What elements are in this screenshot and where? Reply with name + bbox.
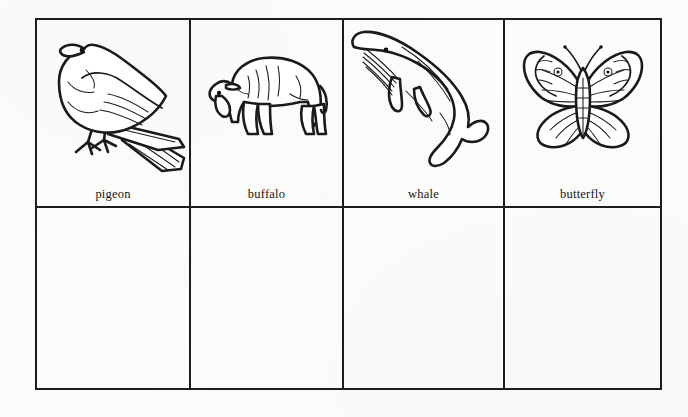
table-cell-buffalo[interactable]: buffalo xyxy=(191,20,344,206)
blank-row xyxy=(37,206,660,388)
blank-cell-1[interactable] xyxy=(37,208,191,388)
cell-label-whale: whale xyxy=(344,188,503,201)
buffalo-illustration xyxy=(191,22,342,172)
animal-table: pigeon xyxy=(35,18,662,390)
table-cell-whale[interactable]: whale xyxy=(344,20,505,206)
whale-illustration xyxy=(344,22,503,172)
worksheet-page: pigeon xyxy=(0,0,688,417)
table-cell-pigeon[interactable]: pigeon xyxy=(37,20,191,206)
blank-cell-2[interactable] xyxy=(191,208,344,388)
cell-label-pigeon: pigeon xyxy=(37,188,189,201)
butterfly-illustration xyxy=(505,22,660,172)
pigeon-illustration xyxy=(37,22,189,172)
blank-cell-4[interactable] xyxy=(505,208,660,388)
cell-label-buffalo: buffalo xyxy=(191,188,342,201)
table-cell-butterfly[interactable]: butterfly xyxy=(505,20,660,206)
blank-cell-3[interactable] xyxy=(344,208,505,388)
picture-row: pigeon xyxy=(37,20,660,206)
cell-label-butterfly: butterfly xyxy=(505,188,660,201)
